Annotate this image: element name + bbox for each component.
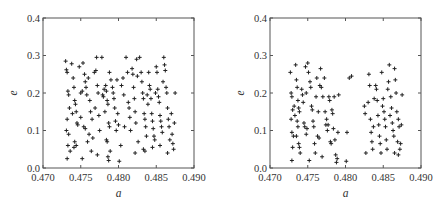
plus-marker-icon: [396, 117, 400, 121]
plus-marker-icon: [157, 100, 161, 104]
plus-marker-icon: [379, 151, 383, 155]
plus-marker-icon: [150, 112, 154, 116]
plus-marker-icon: [104, 84, 108, 88]
plus-marker-icon: [73, 99, 77, 103]
plus-marker-icon: [124, 55, 128, 59]
plus-marker-icon: [107, 125, 111, 129]
plus-marker-icon: [107, 70, 111, 74]
plus-marker-icon: [136, 140, 140, 144]
plus-marker-icon: [144, 134, 148, 138]
plus-marker-icon: [288, 70, 292, 74]
scatter-chart-figure: 0.4700.4750.4800.4850.4900.00.10.20.30.4…: [0, 0, 445, 205]
plus-marker-icon: [77, 65, 81, 69]
plus-marker-icon: [332, 95, 336, 99]
plus-marker-icon: [158, 114, 162, 118]
plus-marker-icon: [73, 102, 77, 106]
plus-marker-icon: [170, 132, 174, 136]
plus-marker-icon: [345, 130, 349, 134]
plus-marker-icon: [378, 142, 382, 146]
plus-marker-icon: [64, 59, 68, 63]
plus-marker-icon: [160, 125, 164, 129]
plus-marker-icon: [110, 85, 114, 89]
plus-marker-icon: [363, 112, 367, 116]
plus-marker-icon: [367, 72, 371, 76]
plus-marker-icon: [396, 153, 400, 157]
plus-marker-icon: [393, 78, 397, 82]
x-tick-label: 0.485: [371, 172, 395, 183]
x-axis-label: a: [343, 187, 349, 199]
plus-marker-icon: [315, 76, 319, 80]
plus-marker-icon: [90, 117, 94, 121]
plus-marker-icon: [295, 85, 299, 89]
plus-marker-icon: [147, 84, 151, 88]
plus-marker-icon: [73, 140, 77, 144]
plus-marker-icon: [95, 84, 99, 88]
data-points: [64, 55, 177, 163]
plus-marker-icon: [163, 63, 167, 67]
plus-marker-icon: [89, 149, 93, 153]
plus-marker-icon: [67, 132, 71, 136]
plus-marker-icon: [320, 155, 324, 159]
plus-marker-icon: [166, 151, 170, 155]
plus-marker-icon: [313, 142, 317, 146]
plus-marker-icon: [165, 91, 169, 95]
plus-marker-icon: [160, 130, 164, 134]
plus-marker-icon: [335, 157, 339, 161]
plus-marker-icon: [392, 134, 396, 138]
plus-marker-icon: [83, 72, 87, 76]
plus-marker-icon: [319, 67, 323, 71]
plus-marker-icon: [126, 70, 130, 74]
plus-marker-icon: [143, 117, 147, 121]
plus-marker-icon: [167, 125, 171, 129]
plus-marker-icon: [306, 61, 310, 65]
plus-marker-icon: [135, 74, 139, 78]
plus-marker-icon: [117, 123, 121, 127]
plus-marker-icon: [290, 130, 294, 134]
x-tick-label: 0.470: [258, 172, 282, 183]
plus-marker-icon: [159, 119, 163, 123]
plus-marker-icon: [374, 87, 378, 91]
plus-marker-icon: [389, 95, 393, 99]
plus-marker-icon: [111, 91, 115, 95]
y-tick-label: 0.4: [254, 13, 268, 24]
plus-marker-icon: [123, 125, 127, 129]
plus-marker-icon: [371, 125, 375, 129]
plus-marker-icon: [140, 80, 144, 84]
plus-marker-icon: [308, 80, 312, 84]
plus-marker-icon: [134, 121, 138, 125]
plus-marker-icon: [369, 130, 373, 134]
plus-marker-icon: [127, 106, 131, 110]
plus-marker-icon: [152, 134, 156, 138]
plus-marker-icon: [109, 78, 113, 82]
plus-marker-icon: [161, 80, 165, 84]
plus-marker-icon: [380, 104, 384, 108]
plus-marker-icon: [385, 147, 389, 151]
plus-marker-icon: [370, 140, 374, 144]
y-tick-label: 0.1: [254, 125, 267, 136]
plus-marker-icon: [84, 85, 88, 89]
plus-marker-icon: [119, 144, 123, 148]
plus-marker-icon: [106, 102, 110, 106]
y-tick-label: 0.2: [27, 88, 40, 99]
plus-marker-icon: [393, 67, 397, 71]
plus-marker-icon: [400, 93, 404, 97]
plus-marker-icon: [98, 129, 102, 133]
plus-marker-icon: [362, 104, 366, 108]
plus-marker-icon: [121, 76, 125, 80]
plus-marker-icon: [97, 114, 101, 118]
plus-marker-icon: [325, 117, 329, 121]
plus-marker-icon: [387, 63, 391, 67]
plus-marker-icon: [316, 110, 320, 114]
plus-marker-icon: [112, 97, 116, 101]
plus-marker-icon: [154, 65, 158, 69]
plus-marker-icon: [163, 69, 167, 73]
plus-marker-icon: [388, 114, 392, 118]
plus-marker-icon: [300, 87, 304, 91]
y-tick-label: 0.3: [27, 50, 40, 61]
plus-marker-icon: [83, 80, 87, 84]
plus-marker-icon: [107, 121, 111, 125]
plus-marker-icon: [148, 87, 152, 91]
plus-marker-icon: [93, 106, 97, 110]
plus-marker-icon: [366, 100, 370, 104]
plus-marker-icon: [304, 91, 308, 95]
